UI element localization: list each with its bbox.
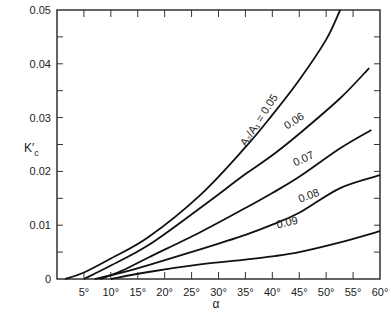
plot-frame [57,10,380,279]
x-axis-title: α [213,297,220,311]
curve-210.05 [65,10,340,279]
y-tick-label: 0.05 [30,4,51,16]
curve-0.09 [111,231,380,279]
x-tick-label: 50° [318,286,335,298]
label-0.09: 0.09 [275,214,299,231]
curves [65,10,380,279]
x-tick-label: 15° [129,286,146,298]
label-0.07: 0.07 [291,148,315,168]
x-tick-label: 45° [291,286,308,298]
x-tick-label: 40° [264,286,281,298]
curve-0.07 [100,130,371,279]
y-axis-title: K′c [24,141,39,158]
y-tick-label: 0 [45,273,51,285]
y-tick-label: 0.01 [30,219,51,231]
x-tick-label: 55° [345,286,362,298]
x-tick-label: 5° [79,286,90,298]
y-tick-label: 0.04 [30,58,51,70]
curve-0.06 [84,68,369,279]
y-tick-label: 0.03 [30,112,51,124]
x-tick-label: 25° [183,286,200,298]
x-tick-label: 60° [372,286,389,298]
x-tick-label: 20° [156,286,173,298]
x-tick-label: 10° [103,286,120,298]
y-tick-label: 0.02 [30,165,51,177]
label-0.05: A₂/A₁ = 0.05 [237,92,280,149]
curve-labels: A₂/A₁ = 0.050.060.070.080.09 [237,92,320,231]
label-0.06: 0.06 [282,110,307,132]
x-tick-label: 35° [237,286,254,298]
chart: 5°10°15°20°25°30°35°40°45°50°55°60°00.01… [0,0,391,318]
